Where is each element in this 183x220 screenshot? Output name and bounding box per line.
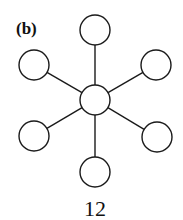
edge-lower-left bbox=[47, 108, 82, 129]
node-center bbox=[80, 85, 110, 115]
node-bottom bbox=[80, 157, 110, 187]
caption: 12 bbox=[0, 196, 183, 220]
node-top bbox=[80, 15, 110, 45]
edge-lower-right bbox=[108, 108, 144, 130]
edge-upper-right bbox=[108, 72, 143, 92]
node-lower-right bbox=[142, 122, 172, 152]
node-upper-left bbox=[19, 50, 49, 80]
figure-panel: (b) 12 bbox=[0, 0, 183, 220]
node-upper-right bbox=[141, 50, 171, 80]
edge-upper-left bbox=[47, 72, 82, 92]
star-graph bbox=[0, 0, 183, 220]
node-lower-left bbox=[19, 121, 49, 151]
